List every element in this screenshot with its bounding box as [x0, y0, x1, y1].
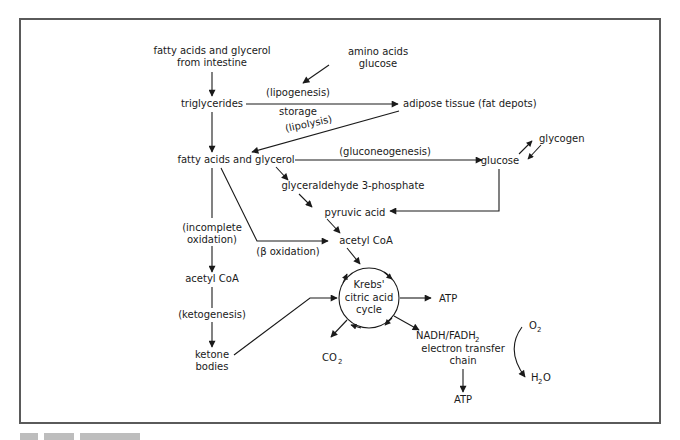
label-storage: storage [279, 106, 317, 117]
label-incomplete-oxidation-line2: oxidation) [187, 234, 237, 245]
nadh-base: NADH/FADH [416, 330, 476, 341]
arrow-ketones-to-krebs [234, 298, 337, 355]
node-fatty-acids-intestine-line1: fatty acids and glycerol [153, 45, 270, 56]
node-glucose: glucose [481, 155, 519, 166]
node-chain: chain [449, 355, 476, 366]
label-ketogenesis: (ketogenesis) [178, 309, 246, 320]
figure-caption-stub [80, 433, 140, 440]
node-ketone-bodies-line1: ketone [195, 349, 229, 360]
figure-caption-stub [20, 433, 38, 440]
o2-subscript: 2 [537, 326, 541, 334]
node-ketone-bodies-line2: bodies [196, 361, 229, 372]
krebs-label-line2: citric acid [345, 292, 394, 303]
o2-base: O [529, 320, 537, 331]
arrow-krebs-to-nadh [394, 316, 419, 330]
node-glycogen: glycogen [539, 133, 585, 144]
node-triglycerides: triglycerides [181, 98, 243, 109]
arrow-lipogenesis [303, 65, 329, 83]
diagram-canvas: fatty acids and glycerol from intestine … [0, 0, 680, 440]
arrow-g3p-to-pyruvic [299, 194, 312, 207]
h2o-o: O [543, 372, 551, 383]
node-pyruvic-acid: pyruvic acid [325, 207, 386, 218]
label-gluconeogenesis: (gluconeogenesis) [339, 146, 431, 157]
node-atp-etc: ATP [454, 394, 472, 405]
node-amino-acids: amino acids [348, 46, 408, 57]
node-fatty-acids-glycerol: fatty acids and glycerol [177, 154, 294, 165]
krebs-label-line1: Krebs' [354, 279, 385, 290]
co2-subscript: 2 [338, 358, 342, 366]
arrow-o2-to-h2o [514, 327, 525, 377]
node-glucose-input: glucose [359, 58, 397, 69]
node-o2: O 2 [529, 320, 541, 334]
figure-caption-stub [44, 433, 74, 440]
node-h2o: H 2 O [531, 372, 551, 386]
node-electron-transfer: electron transfer [421, 343, 505, 354]
node-glyceraldehyde-3-phosphate: glyceraldehyde 3-phosphate [281, 180, 424, 191]
node-acetyl-coa-side: acetyl CoA [185, 273, 239, 284]
node-adipose-tissue: adipose tissue (fat depots) [403, 98, 537, 109]
arrow-acetyl-coa-to-krebs [347, 248, 360, 264]
cycle-arrowhead-upper-right [384, 272, 392, 279]
node-fatty-acids-intestine-line2: from intestine [177, 57, 247, 68]
h2o-subscript: 2 [538, 378, 542, 386]
cycle-arrowhead-lower-right [385, 318, 392, 325]
node-nadh-fadh2: NADH/FADH 2 [416, 330, 479, 344]
label-beta-oxidation: (β oxidation) [256, 246, 320, 257]
metabolism-diagram: fatty acids and glycerol from intestine … [0, 0, 680, 440]
arrow-fatty-acids-to-g3p [276, 167, 288, 180]
node-atp-krebs: ATP [439, 293, 457, 304]
node-acetyl-coa-main: acetyl CoA [339, 235, 393, 246]
co2-base: CO [322, 352, 337, 363]
node-co2: CO 2 [322, 352, 342, 366]
arrow-pyruvic-to-acetyl-coa [327, 219, 340, 233]
arrow-glycogen-to-glucose [528, 145, 541, 159]
arrow-krebs-to-co2 [331, 320, 347, 337]
label-incomplete-oxidation-line1: (incomplete [182, 222, 242, 233]
label-lipogenesis: (lipogenesis) [266, 87, 330, 98]
arrow-glucose-to-glycogen [519, 141, 532, 154]
krebs-label-line3: cycle [356, 304, 382, 315]
